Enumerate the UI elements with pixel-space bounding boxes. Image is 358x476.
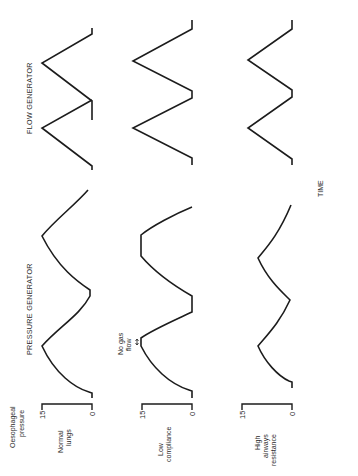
trace-flow-normal-2	[42, 100, 92, 170]
tick-15-high-resistance: 15	[238, 411, 247, 419]
row-label-low-compliance-line2: compliance	[165, 426, 173, 462]
annotation-no-gas-flow-line1: No gas	[117, 332, 125, 355]
trace-flow-high-resistance	[248, 20, 292, 165]
scale-bar-high-resistance	[242, 404, 292, 410]
flow-generator-header: FLOW GENERATOR	[25, 62, 34, 134]
trace-pressure-low-compliance	[141, 207, 192, 398]
row-label-high-resistance-line3: resistance	[270, 434, 277, 466]
scale-bar-low-compliance	[142, 404, 192, 410]
row-label-low-compliance-line1: Low	[157, 442, 164, 456]
y-axis-label-line1: Oesophageal	[9, 406, 17, 448]
ventilation-waveform-figure: PRESSURE GENERATOR FLOW GENERATOR Oesoph…	[0, 0, 358, 476]
trace-pressure-normal	[42, 190, 92, 398]
row-high-airways-resistance: 15 0 High airways resistance	[238, 20, 297, 466]
tick-0-high-resistance: 0	[288, 412, 297, 416]
trace-flow-normal	[42, 28, 92, 120]
double-arrow-icon	[136, 339, 139, 345]
row-label-normal-line2: lungs	[65, 429, 73, 446]
tick-0-low-compliance: 0	[188, 412, 197, 416]
tick-15-normal: 15	[38, 411, 47, 419]
tick-15-low-compliance: 15	[138, 411, 147, 419]
x-axis-label-time: TIME	[317, 180, 324, 197]
y-axis-label-line2: pressure	[18, 410, 26, 437]
row-normal-lungs: 15 0 Normal lungs	[38, 28, 97, 453]
pressure-generator-header: PRESSURE GENERATOR	[25, 263, 34, 355]
scale-bar-normal	[42, 404, 92, 410]
annotation-no-gas-flow-line2: flow	[125, 338, 132, 351]
trace-pressure-high-resistance	[258, 205, 292, 388]
row-label-high-resistance-line1: High	[254, 435, 262, 450]
row-low-compliance: 15 0 Low compliance No gas flow	[117, 20, 197, 462]
trace-flow-low-compliance	[133, 20, 192, 165]
tick-0-normal: 0	[88, 412, 97, 416]
row-label-high-resistance-line2: airways	[262, 434, 270, 458]
row-label-normal-line1: Normal	[57, 430, 64, 453]
